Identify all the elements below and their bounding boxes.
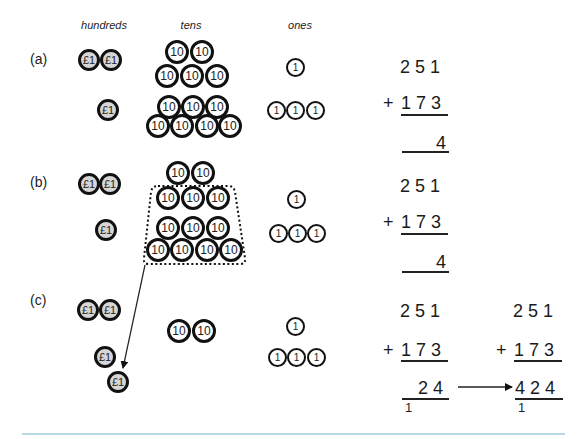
exchange-arrow xyxy=(123,265,145,368)
diagram-overlay xyxy=(0,0,586,439)
dotted-group-outline xyxy=(144,186,245,264)
bottom-rule xyxy=(22,433,565,435)
